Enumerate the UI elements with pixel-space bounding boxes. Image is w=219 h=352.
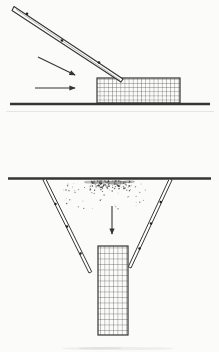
hatched-fill-column [98,246,128,335]
panel-vertical-drop-placement [8,179,211,351]
right-funnel-wall [128,179,172,268]
panel-inclined-chute-placement [6,7,214,112]
hatched-fill-block [97,78,180,103]
two-panel-fill-placement-diagram [0,0,219,352]
scan-smudge [62,347,174,350]
diagonal-flow-arrow [38,57,75,75]
left-funnel-wall [43,179,92,273]
inclined-chute [12,7,123,83]
figure-canvas [0,0,219,352]
spoil-stipple [63,180,145,209]
